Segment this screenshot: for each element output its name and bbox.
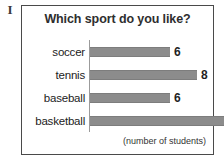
chart-frame: Which sport do you like? soccer 6 tennis… (21, 5, 214, 155)
figure-marker-label: I (2, 2, 18, 18)
chart-title: Which sport do you like? (22, 12, 213, 26)
bar-soccer (90, 47, 170, 57)
category-label-soccer: soccer (22, 46, 85, 58)
bar-value-soccer: 6 (174, 45, 181, 59)
bar-value-tennis: 8 (201, 68, 208, 82)
chart-screenshot: I Which sport do you like? soccer 6 tenn… (0, 0, 224, 161)
bar-row: tennis 8 (22, 63, 213, 86)
bar-row: baseball 6 (22, 86, 213, 109)
bar-basketball (90, 116, 224, 126)
bar-value-baseball: 6 (174, 91, 181, 105)
bar-baseball (90, 93, 170, 103)
bar-tennis (90, 70, 197, 80)
category-label-baseball: baseball (22, 92, 85, 104)
category-label-basketball: basketball (22, 115, 85, 127)
bar-row: soccer 6 (22, 40, 213, 63)
plot-area: soccer 6 tennis 8 baseball 6 basketball … (22, 40, 213, 132)
category-label-tennis: tennis (22, 69, 85, 81)
axis-unit-note: (number of students) (123, 136, 206, 146)
bar-row: basketball 10 (22, 109, 213, 132)
